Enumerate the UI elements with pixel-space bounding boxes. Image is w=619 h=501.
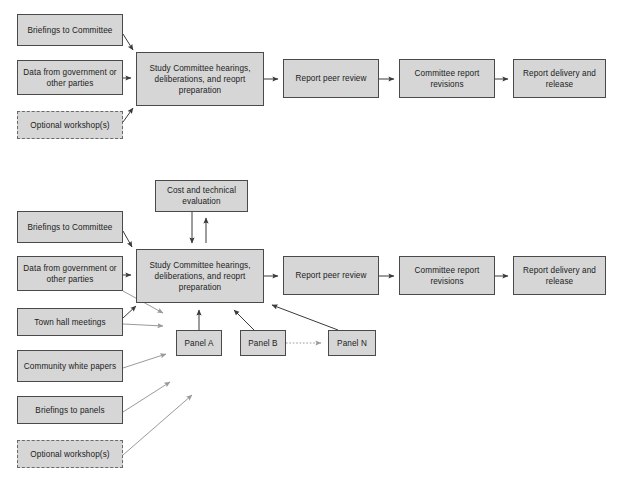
node-study-committee-top[interactable]: Study Committee hearings, deliberations,…: [136, 52, 264, 106]
edge-panelB-to-study: [234, 310, 254, 330]
edge-workshop-to-study: [123, 108, 133, 122]
node-label: Report delivery and release: [517, 265, 602, 287]
node-community-white-papers[interactable]: Community white papers: [17, 350, 123, 382]
node-label: Community white papers: [21, 361, 119, 372]
node-label: Panel A: [180, 338, 218, 349]
node-label: Committee report revisions: [403, 68, 491, 90]
node-label: Report delivery and release: [517, 68, 602, 90]
node-label: Data from government or other parties: [21, 67, 119, 89]
node-town-hall-meetings[interactable]: Town hall meetings: [17, 308, 123, 336]
node-label: Town hall meetings: [21, 317, 119, 328]
node-label: Optional workshop(s): [21, 449, 119, 460]
node-panel-n[interactable]: Panel N: [328, 330, 376, 356]
node-label: Report peer review: [287, 73, 375, 84]
node-label: Data from government or other parties: [21, 263, 119, 285]
node-data-from-government-top[interactable]: Data from government or other parties: [17, 60, 123, 95]
flowchart-canvas: Briefings to Committee Data from governm…: [0, 0, 619, 501]
edge-workshop-to-panels: [123, 395, 192, 455]
edge-briefings-to-study-lower: [123, 231, 132, 247]
node-panel-b[interactable]: Panel B: [240, 330, 286, 356]
node-label: Committee report revisions: [403, 265, 491, 287]
node-cost-and-technical-evaluation[interactable]: Cost and technical evaluation: [155, 180, 248, 212]
edge-community-to-panels: [123, 354, 166, 368]
node-report-peer-review-top[interactable]: Report peer review: [283, 59, 379, 98]
node-label: Cost and technical evaluation: [159, 185, 244, 207]
node-report-delivery-and-release-top[interactable]: Report delivery and release: [513, 59, 606, 98]
edge-briefings-to-study: [123, 34, 133, 50]
node-label: Report peer review: [287, 270, 375, 281]
node-label: Study Committee hearings, deliberations,…: [140, 63, 260, 96]
edge-panelN-to-study: [272, 305, 338, 330]
node-label: Panel N: [332, 338, 372, 349]
node-committee-report-revisions-bottom[interactable]: Committee report revisions: [399, 256, 495, 295]
edge-townhall-to-study: [123, 306, 136, 318]
node-report-peer-review-bottom[interactable]: Report peer review: [283, 256, 379, 295]
edge-townhall-to-panels: [123, 324, 163, 326]
node-optional-workshops-top[interactable]: Optional workshop(s): [17, 111, 123, 139]
node-study-committee-bottom[interactable]: Study Committee hearings, deliberations,…: [136, 249, 264, 303]
edge-panelbriefings-to-panels: [123, 382, 170, 412]
node-briefings-to-committee-top[interactable]: Briefings to Committee: [17, 14, 123, 46]
node-briefings-to-panels[interactable]: Briefings to panels: [17, 396, 123, 424]
node-label: Briefings to panels: [21, 405, 119, 416]
node-label: Briefings to Committee: [21, 222, 119, 233]
node-optional-workshops-bottom[interactable]: Optional workshop(s): [17, 440, 123, 468]
node-committee-report-revisions-top[interactable]: Committee report revisions: [399, 59, 495, 98]
node-label: Briefings to Committee: [21, 25, 119, 36]
node-data-from-government-bottom[interactable]: Data from government or other parties: [17, 256, 123, 291]
node-panel-a[interactable]: Panel A: [176, 330, 222, 356]
node-briefings-to-committee-bottom[interactable]: Briefings to Committee: [17, 211, 123, 243]
node-label: Panel B: [244, 338, 282, 349]
node-report-delivery-and-release-bottom[interactable]: Report delivery and release: [513, 256, 606, 295]
node-label: Optional workshop(s): [21, 120, 119, 131]
node-label: Study Committee hearings, deliberations,…: [140, 260, 260, 293]
